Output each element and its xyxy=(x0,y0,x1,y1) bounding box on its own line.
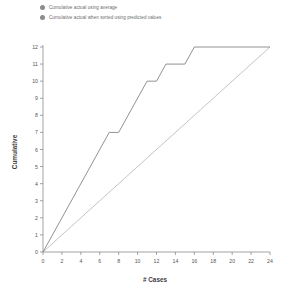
x-tick-label: 18 xyxy=(210,258,216,264)
y-tick-label: 4 xyxy=(35,181,38,187)
chart-svg: 0123456789101112 024681012141618202224 #… xyxy=(0,0,285,291)
y-axis: 0123456789101112 xyxy=(32,44,43,255)
x-tick-label: 24 xyxy=(267,258,273,264)
x-tick-label: 22 xyxy=(248,258,254,264)
x-tick-label: 4 xyxy=(79,258,82,264)
y-tick-label: 5 xyxy=(35,164,38,170)
y-tick-label: 7 xyxy=(35,129,38,135)
y-tick-label: 11 xyxy=(33,61,38,67)
y-tick-label: 1 xyxy=(35,232,38,238)
x-tick-group: 024681012141618202224 xyxy=(42,252,273,264)
x-axis: 024681012141618202224 xyxy=(42,252,273,264)
y-tick-label: 3 xyxy=(35,198,38,204)
x-tick-label: 8 xyxy=(117,258,120,264)
x-tick-label: 0 xyxy=(42,258,45,264)
x-tick-label: 2 xyxy=(60,258,63,264)
y-tick-label: 10 xyxy=(32,78,38,84)
series-group xyxy=(43,47,270,252)
y-axis-title: Cumulative xyxy=(11,134,18,169)
x-tick-label: 12 xyxy=(154,258,160,264)
plot-area: 0123456789101112 024681012141618202224 #… xyxy=(0,0,285,291)
y-tick-label: 0 xyxy=(35,249,38,255)
series-line-0 xyxy=(43,47,270,252)
y-tick-label: 12 xyxy=(32,44,38,50)
chart-container: Cumulative actual using average Cumulati… xyxy=(0,0,285,291)
x-tick-label: 14 xyxy=(173,258,179,264)
y-tick-label: 8 xyxy=(35,112,38,118)
y-tick-group: 0123456789101112 xyxy=(32,44,43,255)
y-tick-label: 6 xyxy=(35,147,38,153)
x-tick-label: 6 xyxy=(98,258,101,264)
x-tick-label: 10 xyxy=(135,258,141,264)
x-tick-label: 20 xyxy=(229,258,235,264)
x-axis-title: # Cases xyxy=(143,276,168,283)
y-tick-label: 9 xyxy=(35,95,38,101)
x-tick-label: 16 xyxy=(191,258,197,264)
y-tick-label: 2 xyxy=(35,215,38,221)
